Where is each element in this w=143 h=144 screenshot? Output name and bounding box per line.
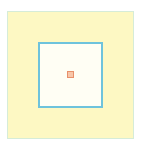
center-marker [67,71,74,78]
